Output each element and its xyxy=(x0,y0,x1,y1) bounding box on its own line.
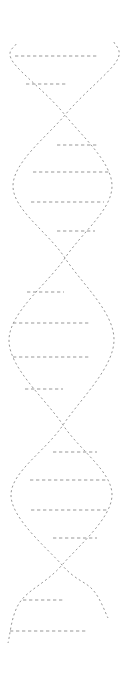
dna-strand-left-start xyxy=(8,44,112,643)
dna-helix-figure xyxy=(0,0,131,676)
dna-helix-illustration xyxy=(0,0,131,676)
dna-strand-right-start xyxy=(11,42,119,618)
